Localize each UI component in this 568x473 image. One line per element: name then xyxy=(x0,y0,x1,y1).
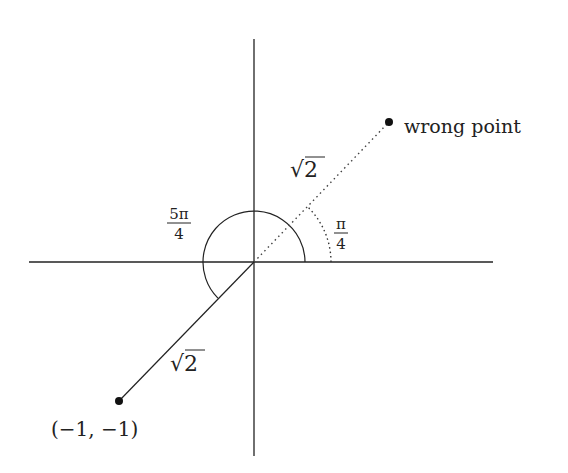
dotted-radius-segment xyxy=(254,122,389,262)
dotted-length-label: √2 xyxy=(290,157,318,182)
solid-radius-segment xyxy=(119,262,254,401)
angle-5pi-4-numerator: 5π xyxy=(169,205,189,223)
angle-pi-4-numerator: π xyxy=(336,215,346,233)
wrong-point-dot xyxy=(385,118,393,126)
wrong-point-label: wrong point xyxy=(404,115,521,137)
angle-5pi-4-denominator: 4 xyxy=(174,225,184,243)
solid-length-label: √2 xyxy=(170,351,198,376)
angle-pi-4-denominator: 4 xyxy=(336,235,346,253)
correct-point-dot xyxy=(115,397,123,405)
angle-arc-pi-4 xyxy=(308,208,331,262)
polar-angle-diagram: wrong point (−1, −1) √2 √2 5π 4 π 4 xyxy=(0,0,568,473)
correct-point-label: (−1, −1) xyxy=(51,417,138,441)
